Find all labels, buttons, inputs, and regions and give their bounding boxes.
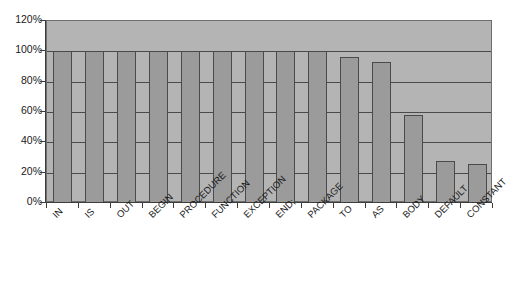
y-axis-tick-label: 100% [2, 44, 42, 55]
x-axis-tick [173, 203, 174, 208]
x-axis-tick [110, 203, 111, 208]
x-axis-tick [205, 203, 206, 208]
y-axis-labels: 0%20%40%60%80%100%120% [0, 0, 42, 289]
y-axis-tick [40, 20, 45, 21]
plot-inner [47, 21, 491, 201]
y-axis-tick [40, 172, 45, 173]
bar [85, 51, 104, 203]
y-axis-tick-label: 20% [2, 166, 42, 177]
x-axis-tick [46, 203, 47, 208]
bar [340, 57, 359, 203]
bar [372, 62, 391, 203]
x-axis-tick [365, 203, 366, 208]
bar-chart: 0%20%40%60%80%100%120% INISOUTBEGINPROCE… [0, 0, 510, 289]
x-axis-tick [142, 203, 143, 208]
y-axis-tick-label: 80% [2, 75, 42, 86]
bar [308, 51, 327, 203]
bar [181, 51, 200, 203]
y-axis-tick [40, 141, 45, 142]
bar [149, 51, 168, 203]
y-axis-tick [40, 111, 45, 112]
plot-area [46, 20, 492, 202]
gridline [47, 112, 491, 113]
bar [117, 51, 136, 203]
x-axis-tick [78, 203, 79, 208]
y-axis-tick [40, 81, 45, 82]
y-axis-tick [40, 50, 45, 51]
x-axis-tick [428, 203, 429, 208]
x-axis-tick [460, 203, 461, 208]
gridline [47, 51, 491, 52]
bar [404, 115, 423, 203]
y-axis-tick-label: 60% [2, 105, 42, 116]
x-axis-tick [269, 203, 270, 208]
x-axis-category-label: TO [338, 204, 354, 220]
x-axis-category-label: IN [51, 206, 65, 220]
x-axis-category-label: IS [83, 207, 96, 220]
x-axis-tick [301, 203, 302, 208]
x-axis-tick [396, 203, 397, 208]
gridline [47, 82, 491, 83]
x-axis-category-label: AS [369, 204, 385, 220]
y-axis-tick-label: 0% [2, 196, 42, 207]
gridline [47, 173, 491, 174]
x-axis-tick [333, 203, 334, 208]
x-axis-tick [237, 203, 238, 208]
gridline [47, 142, 491, 143]
y-axis-tick-label: 40% [2, 135, 42, 146]
y-axis-tick-label: 120% [2, 14, 42, 25]
x-axis-tick [492, 203, 493, 208]
bar [53, 51, 72, 203]
